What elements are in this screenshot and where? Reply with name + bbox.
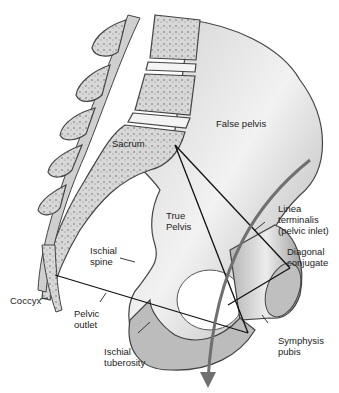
label-coccyx: Coccyx bbox=[10, 295, 41, 306]
label-ischial-tuberosity: Ischial tuberosity bbox=[104, 346, 145, 368]
label-linea-terminalis: Linea terminalis (pelvic inlet) bbox=[278, 203, 329, 236]
lumbar-vertebrae bbox=[128, 15, 200, 128]
label-diagonal-conjugate: Diagonal conjugate bbox=[287, 246, 328, 268]
label-ischial-spine: Ischial spine bbox=[90, 245, 117, 267]
label-true-pelvis: True Pelvis bbox=[166, 210, 191, 232]
label-sacrum: Sacrum bbox=[112, 138, 145, 149]
label-pelvic-outlet: Pelvic outlet bbox=[74, 308, 99, 330]
label-false-pelvis: False pelvis bbox=[216, 118, 266, 129]
label-symphysis-pubis: Symphysis pubis bbox=[278, 335, 324, 357]
arrow-head-icon bbox=[200, 372, 216, 388]
